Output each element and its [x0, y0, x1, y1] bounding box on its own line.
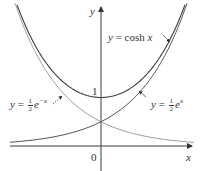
x-axis-label: x: [186, 152, 191, 163]
cosh-pointer-arrow: [163, 35, 170, 42]
y-tick-one-label: 1: [92, 86, 98, 97]
origin-label: 0: [91, 152, 97, 163]
exp-neg-pointer-arrow: [53, 96, 62, 104]
y-axis-label: y: [90, 6, 95, 17]
exp-neg-annotation: y = 12e−x: [10, 98, 47, 113]
exp-pos-curve: [10, 3, 187, 142]
exp-pos-annotation: y = 12ex: [151, 98, 183, 113]
exp-neg-curve: [15, 3, 194, 142]
exp-pos-pointer-arrow: [139, 91, 146, 97]
cosh-annotation: y = cosh x: [108, 32, 152, 43]
cosh-graph: [0, 0, 202, 171]
